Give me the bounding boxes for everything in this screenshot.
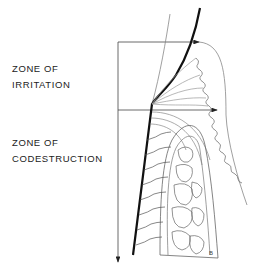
epithelium-wavy-line (196, 58, 242, 183)
tooth-surface-line (133, 8, 200, 255)
periodontal-diagram: B (0, 0, 263, 271)
alveolar-bone-inner (167, 136, 210, 255)
thin-reference-line (152, 14, 170, 104)
figure-mark: B (209, 250, 213, 256)
alveolar-bone-outline (160, 125, 218, 258)
bone-marrow-cells (172, 147, 204, 254)
gingiva-outer-contour (199, 42, 247, 205)
fan-fibers (152, 58, 208, 106)
